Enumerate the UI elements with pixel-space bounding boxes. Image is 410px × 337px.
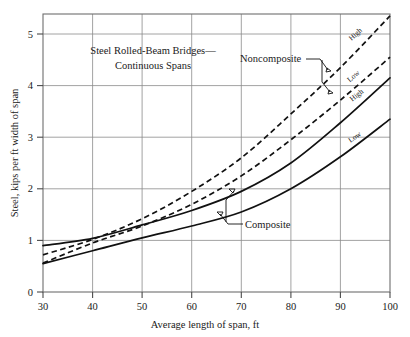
ytick-label-4: 4 xyxy=(28,80,34,91)
xtick-label-80: 80 xyxy=(286,301,297,312)
xtick-label-50: 50 xyxy=(137,301,148,312)
chart-title-line-1: Steel Rolled-Beam Bridges— xyxy=(90,45,216,56)
y-axis-tick-labels: 0 1 2 3 4 5 xyxy=(28,29,34,298)
ytick-label-2: 2 xyxy=(28,183,33,194)
y-axis-ticks xyxy=(37,34,43,292)
ytick-label-0: 0 xyxy=(28,287,33,298)
xtick-label-30: 30 xyxy=(38,301,49,312)
x-axis-ticks xyxy=(43,292,390,298)
ytick-label-3: 3 xyxy=(28,132,33,143)
x-axis-title: Average length of span, ft xyxy=(151,319,260,330)
xtick-label-60: 60 xyxy=(186,301,197,312)
annotation-noncomposite-label: Noncomposite xyxy=(240,53,302,64)
ytick-label-5: 5 xyxy=(28,29,33,40)
y-axis-title: Steel, kips per ft width of span xyxy=(9,88,20,217)
chart-figure: 0 1 2 3 4 5 30 40 50 60 70 80 90 100 Ave… xyxy=(0,0,410,337)
ytick-label-1: 1 xyxy=(28,235,33,246)
xtick-label-100: 100 xyxy=(382,301,398,312)
annotation-composite-label: Composite xyxy=(245,219,291,230)
xtick-label-70: 70 xyxy=(236,301,247,312)
chart-svg: 0 1 2 3 4 5 30 40 50 60 70 80 90 100 Ave… xyxy=(0,0,410,337)
xtick-label-90: 90 xyxy=(335,301,346,312)
xtick-label-40: 40 xyxy=(87,301,98,312)
chart-title-line-2: Continuous Spans xyxy=(115,60,191,71)
x-axis-tick-labels: 30 40 50 60 70 80 90 100 xyxy=(38,301,398,312)
